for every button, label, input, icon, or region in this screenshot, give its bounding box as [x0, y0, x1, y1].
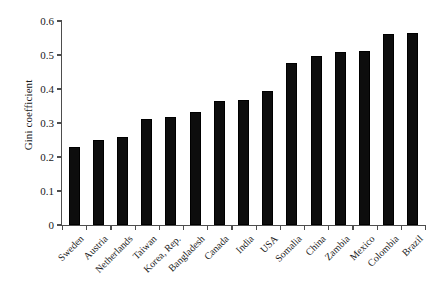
y-axis-title-container: Gini coefficient — [18, 0, 38, 230]
plot-area: 00.10.20.30.40.50.6 — [62, 21, 425, 225]
x-tick-label-text: Sweden — [56, 233, 86, 263]
gini-coefficient-bar-chart: Gini coefficient 00.10.20.30.40.50.6 Swe… — [0, 0, 446, 290]
y-axis-title: Gini coefficient — [22, 80, 34, 151]
bar-series — [62, 21, 425, 225]
x-tick-label-text: India — [233, 233, 255, 255]
y-tick-label: 0.2 — [40, 151, 54, 163]
bar — [311, 56, 322, 225]
bar — [286, 63, 297, 225]
bar — [359, 51, 370, 225]
bar — [69, 147, 80, 225]
y-tick-label: 0.3 — [40, 117, 54, 129]
bar — [165, 117, 176, 225]
y-tick-label: 0.5 — [40, 49, 54, 61]
y-tick-label: 0.6 — [40, 15, 54, 27]
bar — [335, 52, 346, 225]
x-tick-mark — [62, 225, 63, 230]
y-tick-label: 0 — [49, 219, 55, 231]
bar — [262, 91, 273, 225]
y-tick-label: 0.4 — [40, 83, 54, 95]
bar — [407, 33, 418, 225]
bar — [238, 100, 249, 225]
y-tick-label: 0.1 — [40, 185, 54, 197]
bar — [383, 34, 394, 225]
